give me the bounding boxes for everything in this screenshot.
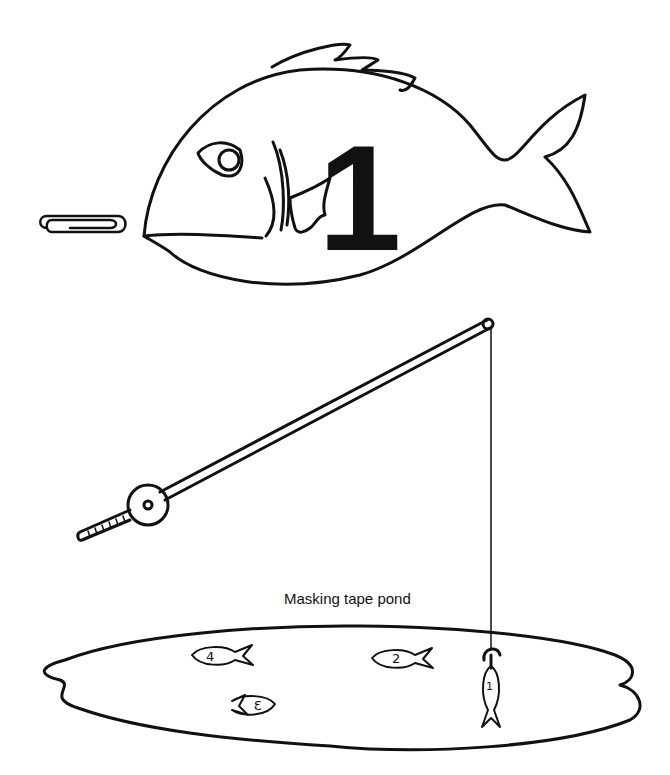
big-fish-mouth	[144, 234, 262, 238]
big-fish-eye	[219, 150, 239, 170]
fishing-rod	[78, 319, 500, 668]
magnet-hook	[484, 649, 500, 668]
pond-fish-1-hooked	[482, 666, 500, 727]
masking-tape-pond	[44, 626, 640, 750]
paperclip-icon	[40, 216, 125, 232]
pond-fish-2	[372, 648, 433, 668]
rod-pole	[160, 320, 487, 492]
pond-caption: Masking tape pond	[284, 590, 411, 607]
pond-fish-3-number: 3	[254, 698, 262, 713]
big-fish-dorsal-fin	[272, 44, 415, 90]
rod-reel	[128, 485, 168, 525]
rod-reel-hub	[144, 501, 152, 509]
pond-fish-group	[192, 645, 500, 727]
pond-fish-4-number: 4	[206, 649, 214, 664]
pond-fish-3	[232, 695, 275, 715]
big-fish-smile	[265, 178, 274, 236]
rod-handle	[78, 510, 130, 540]
fishing-game-illustration: 1 4 2 3 1 Masking tape pond	[0, 0, 670, 775]
pond-fish-1-number: 1	[486, 680, 493, 693]
big-fish-number: 1	[318, 114, 401, 282]
drawing: 1 4 2 3 1	[0, 0, 670, 775]
pond-fish-4	[192, 645, 253, 665]
pond-fish-2-number: 2	[392, 651, 400, 666]
